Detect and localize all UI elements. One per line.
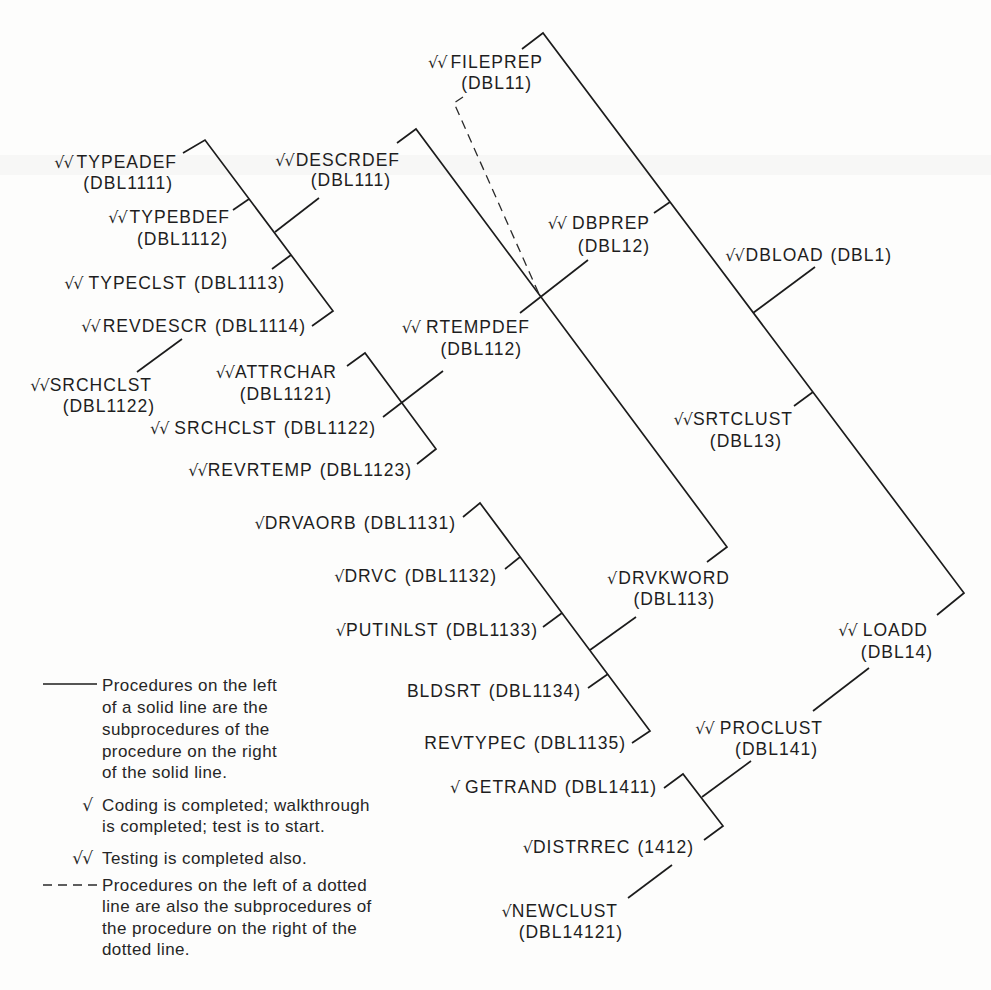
procedure-name: DBPREP <box>572 213 650 233</box>
node-drvkword-code: (DBL113) <box>633 589 715 609</box>
node-putinlst: √PUTINLST(DBL1133) <box>336 620 538 640</box>
node-rtempdef-name: √√RTEMPDEF <box>402 317 530 337</box>
procedure-name: TYPECLST <box>89 273 187 293</box>
legend-dashed-text: Procedures on the left of a dotted <box>102 876 367 895</box>
status-checkmark: √√ <box>275 151 295 170</box>
status-checkmark: √√ <box>674 410 694 429</box>
status-checkmark: √√ <box>54 153 74 172</box>
status-checkmark: √√ <box>695 719 715 738</box>
procedure-name: TYPEADEF <box>77 152 177 172</box>
node-descrdef-code: (DBL111) <box>311 170 391 190</box>
legend-dashed-text: dotted line. <box>102 940 190 959</box>
rtempdef-connector <box>383 371 443 417</box>
loadd-proclust-connector <box>813 668 869 711</box>
procedure-code: (DBL1114) <box>215 316 306 336</box>
srtclust-tick <box>794 392 813 406</box>
node-drvc: √DRVC(DBL1132) <box>334 566 497 586</box>
procedure-code: (DBL1135) <box>534 733 626 753</box>
legend-double-check-text: Testing is completed also. <box>102 849 307 868</box>
dbprep-tick <box>654 202 670 213</box>
dbload-bracket-line <box>522 33 964 615</box>
node-srchclst-a-code: (DBL1122) <box>63 396 155 416</box>
procedure-code: (DBL1132) <box>405 566 497 586</box>
node-srchclst-a-name: √√SRCHCLST <box>30 375 152 395</box>
legend-solid-text: procedure on the right <box>102 742 277 761</box>
node-fileprep-code: (DBL11) <box>461 73 532 93</box>
status-checkmark: √√ <box>548 214 568 233</box>
status-checkmark: √√ <box>150 419 170 438</box>
procedure-name: DESCRDEF <box>296 150 400 170</box>
procedure-hierarchy-diagram: √√FILEPREP (DBL11) √√TYPEADEF (DBL1111) … <box>0 0 991 990</box>
procedure-name: REVDESCR <box>103 316 208 336</box>
status-checkmark: √√ <box>188 461 208 480</box>
node-typeadef-code: (DBL1111) <box>83 173 173 193</box>
legend-single-check-text: Coding is completed; walkthrough <box>102 796 370 815</box>
node-newclust-name: √NEWCLUST <box>502 901 618 921</box>
dbload-connector <box>753 267 815 313</box>
procedure-name: SRCHCLST <box>174 418 276 438</box>
procedure-code: (DBL1) <box>831 245 892 265</box>
proclust-connector <box>702 761 751 797</box>
legend-single-check-icon: √ <box>82 795 93 815</box>
node-revrtemp: √√REVRTEMP(DBL1123) <box>188 460 412 480</box>
procedure-code: (DBL1133) <box>446 620 538 640</box>
node-getrand: √GETRAND(DBL1411) <box>450 777 657 797</box>
procedure-code: (DBL1411) <box>565 777 657 797</box>
procedure-name: DRVC <box>344 566 397 586</box>
distrrec-newclust-connector <box>628 865 672 898</box>
procedure-name: DBLOAD <box>746 245 824 265</box>
node-proclust-name: √√PROCLUST <box>695 718 823 738</box>
legend-solid-text: subprocedures of the <box>102 720 270 739</box>
status-checkmark: √ <box>450 778 461 797</box>
node-distrrec: √DISTRREC(1412) <box>523 837 694 857</box>
node-drvaorb: √DRVAORB(DBL1131) <box>255 513 456 533</box>
legend-solid-text: Procedures on the left <box>102 676 277 695</box>
node-attrchar-name: √√ATTRCHAR <box>216 362 337 382</box>
node-bldsrt: BLDSRT(DBL1134) <box>407 681 581 701</box>
node-srtclust-code: (DBL13) <box>710 431 782 451</box>
procedure-code: (DBL1123) <box>320 460 412 480</box>
node-fileprep-name: √√FILEPREP <box>428 52 543 72</box>
legend-dashed-text: line are also the subprocedures of <box>102 897 372 916</box>
procedure-name: REVTYPEC <box>424 733 526 753</box>
node-typebdef-code: (DBL1112) <box>137 229 228 249</box>
typebdef-tick <box>233 199 249 210</box>
node-typebdef-name: √√TYPEBDEF <box>108 207 230 227</box>
node-proclust-code: (DBL141) <box>735 739 818 759</box>
status-checkmark: √√ <box>108 208 128 227</box>
rtempdef-dbprep-connector <box>520 260 588 313</box>
node-attrchar-code: (DBL1121) <box>240 384 332 404</box>
revdescr-srchclst-connector <box>137 339 182 372</box>
legend-dashed-text: the procedure on the right of the <box>102 919 357 938</box>
proclust-bracket-line <box>664 774 723 840</box>
descrdef-connector <box>275 198 319 232</box>
fileprep-dotted-line <box>454 97 539 294</box>
status-checkmark: √√ <box>81 317 101 336</box>
node-dbload: √√DBLOAD(DBL1) <box>725 245 892 265</box>
drvc-tick <box>505 557 520 569</box>
procedure-name: DISTRREC <box>533 837 630 857</box>
procedure-name: BLDSRT <box>407 681 482 701</box>
putinlst-tick <box>543 613 562 627</box>
procedure-name: PROCLUST <box>720 718 823 738</box>
procedure-name: NEWCLUST <box>512 901 618 921</box>
node-srtclust-name: √√SRTCLUST <box>674 409 793 429</box>
node-rtempdef-code: (DBL112) <box>440 339 522 359</box>
procedure-name: ATTRCHAR <box>235 362 337 382</box>
legend-solid-text: of a solid line are the <box>102 698 268 717</box>
legend: Procedures on the left of a solid line a… <box>43 676 372 959</box>
node-newclust-code: (DBL14121) <box>519 922 623 942</box>
status-checkmark: √√ <box>428 53 448 72</box>
legend-double-check-icon: √√ <box>72 848 93 868</box>
procedure-name: GETRAND <box>465 777 558 797</box>
procedure-name: SRCHCLST <box>50 375 152 395</box>
procedure-name: FILEPREP <box>450 52 543 72</box>
status-checkmark: √√ <box>725 246 745 265</box>
procedure-code: (DBL1113) <box>194 273 285 293</box>
procedure-name: DRVAORB <box>265 513 357 533</box>
rtempdef-bracket-line <box>347 353 436 464</box>
procedure-name: TYPEBDEF <box>130 207 230 227</box>
procedure-name: RTEMPDEF <box>426 317 530 337</box>
procedure-name: LOADD <box>863 620 928 640</box>
node-revdescr: √√REVDESCR(DBL1114) <box>81 316 306 336</box>
